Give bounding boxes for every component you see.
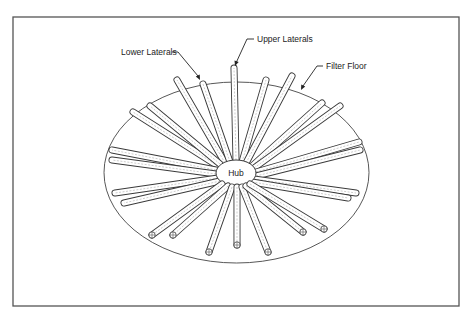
callout-upper-laterals: Upper Laterals — [234, 34, 312, 66]
callout-lower-laterals: Lower Laterals — [121, 47, 200, 80]
callout-filter-floor: Filter Floor — [301, 61, 367, 90]
hub-label: Hub — [228, 168, 244, 178]
lateral-pipe — [234, 187, 240, 248]
underdrain-diagram: Hub Upper Laterals Lower Laterals Filter… — [0, 0, 469, 314]
upper-laterals-label: Upper Laterals — [257, 34, 313, 44]
leader-line — [303, 66, 323, 86]
lateral-pipe — [234, 68, 236, 160]
filter-floor-label: Filter Floor — [326, 61, 367, 71]
leader-line — [236, 39, 254, 63]
lower-laterals-label: Lower Laterals — [121, 47, 177, 57]
callouts: Upper Laterals Lower Laterals Filter Flo… — [121, 34, 367, 90]
arrowhead-icon — [234, 61, 238, 66]
